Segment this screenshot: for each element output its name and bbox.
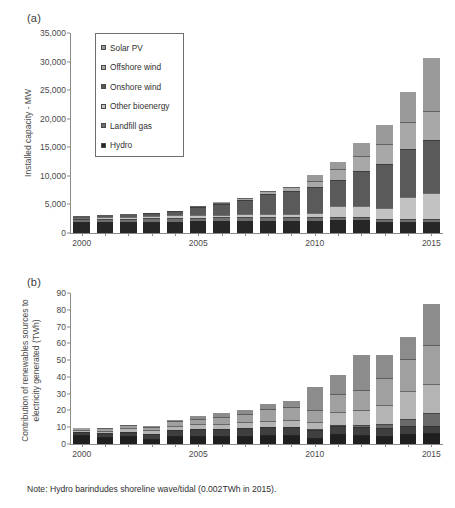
bar-segment-landfill-gas <box>423 426 440 434</box>
legend-item-offshore-wind: Offshore wind <box>101 58 183 78</box>
bar-2014 <box>400 92 417 233</box>
legend-swatch-icon <box>101 123 106 128</box>
bar-2013 <box>376 355 393 444</box>
bar-2010 <box>307 387 324 444</box>
bar-segment-solar-pv <box>330 162 347 170</box>
bar-2009 <box>283 401 300 444</box>
bar-segment-other-bioenergy <box>423 193 440 219</box>
bar-2013 <box>376 125 393 233</box>
bar-segment-other-bioenergy <box>376 405 393 424</box>
bar-segment-offshore-wind <box>376 144 393 164</box>
x-tick-mark <box>128 444 129 447</box>
y-tick-mark <box>67 147 70 148</box>
x-tick-mark <box>268 233 269 236</box>
bar-segment-onshore-wind <box>376 164 393 208</box>
x-tick-mark <box>361 233 362 236</box>
bar-segment-other-bioenergy <box>330 412 347 425</box>
x-tick-label: 2005 <box>189 449 208 459</box>
bar-segment-offshore-wind <box>400 122 417 149</box>
x-tick-label: 2010 <box>305 449 324 459</box>
bar-segment-other-bioenergy <box>353 410 370 424</box>
y-tick-label: 30,000 <box>40 57 70 67</box>
bar-segment-landfill-gas <box>283 427 300 435</box>
bar-2000 <box>73 428 90 444</box>
bar-segment-onshore-wind <box>400 149 417 197</box>
y-tick-mark <box>67 90 70 91</box>
bar-segment-total-hydro <box>237 436 254 444</box>
bar-segment-onshore-wind <box>400 359 417 390</box>
panel-b-y-axis-label: Contribution of renewables sources to el… <box>20 293 41 448</box>
x-tick-mark <box>198 233 199 236</box>
y-tick-mark <box>67 427 70 428</box>
bar-segment-hydro <box>376 222 393 233</box>
bar-2001 <box>97 428 114 444</box>
bar-segment-offshore-wind <box>330 375 347 394</box>
bar-segment-solar-pv <box>423 413 440 426</box>
bar-2008 <box>260 191 277 233</box>
bar-segment-hydro <box>120 222 137 233</box>
bar-segment-landfill-gas <box>400 426 417 434</box>
bar-segment-onshore-wind <box>213 417 230 424</box>
bar-2002 <box>120 425 137 444</box>
bar-2010 <box>307 175 324 233</box>
bar-segment-total-hydro <box>353 435 370 444</box>
bar-segment-onshore-wind <box>353 390 370 410</box>
bar-segment-onshore-wind <box>190 207 207 215</box>
x-tick-mark <box>245 233 246 236</box>
bar-segment-hydro <box>97 222 114 233</box>
bar-segment-hydro <box>73 222 90 233</box>
x-tick-mark <box>361 444 362 447</box>
bar-2003 <box>143 213 160 233</box>
bar-segment-total-hydro <box>97 437 114 444</box>
y-tick-mark <box>67 410 70 411</box>
y-tick-mark <box>67 175 70 176</box>
y-tick-label: 15,000 <box>40 142 70 152</box>
panel-b-bars <box>70 293 443 444</box>
bar-segment-onshore-wind <box>423 140 440 193</box>
x-tick-mark <box>291 444 292 447</box>
legend-item-landfill-gas: Landfill gas <box>101 116 183 136</box>
x-tick-mark <box>338 444 339 447</box>
x-tick-label: 2015 <box>422 238 441 248</box>
bar-segment-total-hydro <box>73 435 90 444</box>
x-tick-mark <box>315 233 316 236</box>
bar-segment-other-bioenergy <box>400 197 417 219</box>
bar-segment-hydro <box>237 221 254 233</box>
bar-segment-onshore-wind <box>260 194 277 214</box>
x-tick-mark <box>291 233 292 236</box>
bar-segment-landfill-gas <box>376 428 393 436</box>
bar-segment-hydro <box>260 221 277 233</box>
bar-segment-total-hydro <box>330 434 347 444</box>
bar-2004 <box>167 211 184 233</box>
bar-segment-hydro <box>353 220 370 233</box>
x-tick-mark <box>431 444 432 447</box>
bar-segment-onshore-wind <box>423 345 440 383</box>
x-tick-mark <box>198 444 199 447</box>
bar-segment-offshore-wind <box>423 111 440 140</box>
bar-segment-offshore-wind <box>400 337 417 360</box>
bar-segment-onshore-wind <box>307 187 324 212</box>
legend-swatch-icon <box>101 84 106 89</box>
legend-swatch-icon <box>101 45 106 50</box>
panel-b-label: (b) <box>27 276 41 288</box>
x-tick-label: 2010 <box>305 238 324 248</box>
bar-segment-onshore-wind <box>283 191 300 213</box>
bar-segment-hydro <box>190 221 207 233</box>
bar-segment-onshore-wind <box>330 180 347 206</box>
bar-segment-hydro <box>330 220 347 233</box>
bar-segment-hydro <box>167 222 184 233</box>
panel-a-legend: Solar PVOffshore windOnshore windOther b… <box>95 33 184 157</box>
y-tick-mark <box>67 444 70 445</box>
bar-segment-hydro <box>400 222 417 233</box>
bar-2011 <box>330 162 347 233</box>
bar-segment-total-hydro <box>260 435 277 444</box>
panel-b-plot-area: 0102030405060708090 2000200520102015 <box>70 293 443 444</box>
bar-segment-total-hydro <box>283 435 300 444</box>
bar-2009 <box>283 187 300 233</box>
x-tick-mark <box>222 233 223 236</box>
x-tick-mark <box>128 233 129 236</box>
x-tick-label: 2005 <box>189 238 208 248</box>
bar-segment-other-bioenergy <box>376 208 393 219</box>
y-tick-label: 25,000 <box>40 85 70 95</box>
x-tick-mark <box>431 233 432 236</box>
